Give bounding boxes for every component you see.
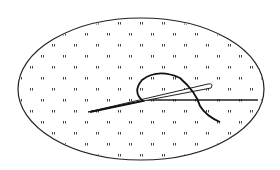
stitch-diagram [0,0,280,170]
